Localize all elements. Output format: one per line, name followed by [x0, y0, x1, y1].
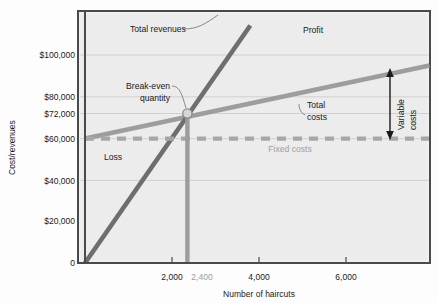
y-tick-label-72000: $72,000: [44, 109, 75, 119]
region-label-profit: Profit: [303, 25, 324, 35]
y-tick-label-40000: $40,000: [44, 176, 75, 186]
variable-costs-label-line2: costs: [408, 110, 418, 130]
breakeven-chart-figure: 2,000 2,400 4,000 6,000 0 $20,000 $40,00…: [0, 0, 438, 303]
fixed-costs-label: Fixed costs: [268, 144, 311, 154]
x-tick-label-2000: 2,000: [161, 272, 183, 282]
chart-canvas: 2,000 2,400 4,000 6,000 0 $20,000 $40,00…: [0, 0, 438, 303]
y-tick-label-100000: $100,000: [40, 50, 76, 60]
y-axis-title: Cost/revenues: [7, 120, 17, 175]
break-even-point-marker: [183, 109, 192, 118]
total-revenues-label: Total revenues: [130, 24, 186, 34]
total-costs-label-line2: costs: [307, 112, 327, 122]
variable-costs-label-line1: Variable: [396, 99, 406, 130]
y-tick-label-0: 0: [70, 258, 75, 268]
x-axis-title: Number of haircuts: [223, 289, 295, 299]
x-tick-label-4000: 4,000: [248, 272, 270, 282]
break-even-label-line2: quantity: [140, 93, 171, 103]
total-costs-label-line1: Total: [307, 100, 325, 110]
x-tick-label-2400: 2,400: [191, 272, 213, 282]
region-label-loss: Loss: [104, 152, 122, 162]
y-tick-label-60000: $60,000: [44, 134, 75, 144]
break-even-label-line1: Break-even: [126, 81, 170, 91]
y-tick-label-80000: $80,000: [44, 92, 75, 102]
y-tick-label-20000: $20,000: [44, 216, 75, 226]
x-tick-label-6000: 6,000: [335, 272, 357, 282]
